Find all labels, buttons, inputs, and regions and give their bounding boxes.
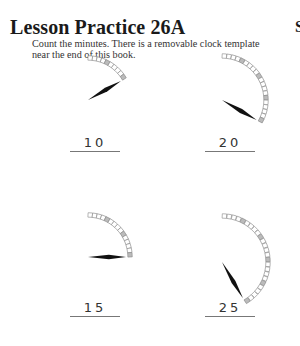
clock-20-minutes — [200, 52, 290, 132]
clock-15-minutes — [70, 207, 160, 287]
answer-4: 25 — [205, 300, 255, 317]
clock-25-minutes — [200, 207, 290, 307]
answer-3: 15 — [70, 300, 120, 317]
clock-10-minutes — [70, 52, 160, 132]
cropped-page-letter: S — [295, 18, 300, 36]
answer-1: 10 — [70, 135, 120, 152]
page-title: Lesson Practice 26A — [10, 16, 185, 39]
answer-2: 20 — [205, 135, 255, 152]
